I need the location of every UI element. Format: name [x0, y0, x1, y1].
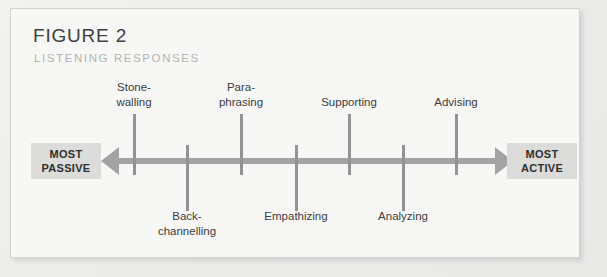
node-label-empathizing: Empathizing — [264, 209, 327, 224]
node-label-advising: Advising — [434, 95, 477, 110]
figure-card: FIGURE 2 LISTENING RESPONSES Stone- wall… — [10, 8, 580, 258]
continuum-axis-line — [113, 158, 501, 164]
endcap-most-passive: MOST PASSIVE — [31, 143, 101, 179]
tick-mark — [455, 114, 458, 175]
tick-mark — [186, 145, 189, 211]
tick-mark — [295, 145, 298, 211]
tick-mark — [402, 145, 405, 211]
left-arrow-icon — [101, 147, 119, 175]
node-label-stone-walling: Stone- walling — [116, 80, 151, 109]
node-label-supporting: Supporting — [321, 95, 377, 110]
tick-mark — [133, 114, 136, 175]
tick-mark — [240, 114, 243, 175]
node-label-para-phrasing: Para- phrasing — [219, 80, 263, 109]
listening-responses-continuum: Stone- wallingBack- channellingPara- phr… — [11, 9, 580, 258]
tick-mark — [348, 114, 351, 175]
node-label-back-channelling: Back- channelling — [158, 209, 216, 238]
node-label-analyzing: Analyzing — [378, 209, 428, 224]
endcap-most-active: MOST ACTIVE — [507, 143, 577, 179]
